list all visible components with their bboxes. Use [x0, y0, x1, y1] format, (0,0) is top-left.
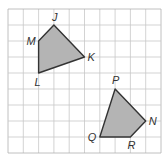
vertex-label-k: K — [88, 51, 96, 63]
vertex-label-l: L — [35, 76, 41, 88]
vertex-label-m: M — [27, 35, 37, 47]
vertex-label-n: N — [149, 115, 157, 127]
coordinate-grid-diagram: JKLMPNRQ — [0, 0, 168, 162]
quadrilaterals — [39, 25, 146, 137]
vertex-label-p: P — [112, 74, 120, 86]
grid-lines — [8, 9, 161, 153]
quadrilateral-pnrq — [100, 89, 146, 137]
vertex-label-r: R — [127, 139, 135, 151]
vertex-label-j: J — [51, 11, 58, 23]
quadrilateral-jklm — [39, 25, 85, 73]
vertex-label-q: Q — [88, 131, 97, 143]
